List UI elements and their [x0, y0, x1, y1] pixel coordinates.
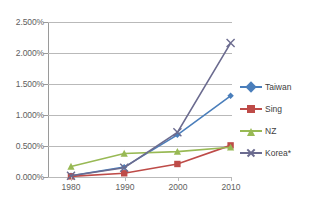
y-tick-label: 0.000%	[2, 172, 44, 182]
series-line	[71, 43, 231, 176]
legend-item-sing[interactable]: Sing	[240, 98, 318, 120]
x-axis-tick	[231, 177, 232, 181]
legend-label: Korea*	[265, 149, 291, 158]
x-axis-line	[48, 177, 232, 178]
y-tick-label: 2.500%	[2, 17, 44, 27]
legend-item-nz[interactable]: NZ	[240, 120, 318, 142]
series-line	[71, 96, 231, 176]
series-layer	[48, 22, 232, 177]
y-tick-label: 1.500%	[2, 79, 44, 89]
legend-label: NZ	[265, 127, 276, 136]
x-axis-tick	[125, 177, 126, 181]
y-tick-label: 2.000%	[2, 48, 44, 58]
legend-item-taiwan[interactable]: Taiwan	[240, 76, 318, 98]
y-tick-label: 0.500%	[2, 141, 44, 151]
legend-item-korea[interactable]: Korea*	[240, 142, 318, 164]
data-point	[227, 39, 235, 47]
legend-label: Taiwan	[265, 83, 291, 92]
series-taiwan	[68, 93, 234, 179]
x-tick-label: 2010	[211, 182, 251, 192]
legend-swatch-sing	[240, 103, 262, 115]
line-chart: 2.500% 2.000% 1.500% 1.000% 0.500% 0.000…	[0, 0, 320, 210]
plot-area	[48, 22, 232, 177]
x-tick-label: 2000	[158, 182, 198, 192]
x-axis-tick	[178, 177, 179, 181]
y-tick-label: 1.000%	[2, 110, 44, 120]
data-point	[174, 161, 180, 167]
legend-swatch-korea	[240, 147, 262, 159]
series-korea	[67, 39, 235, 180]
chart-legend: Taiwan Sing NZ Korea*	[240, 76, 318, 164]
data-point	[121, 170, 127, 176]
legend-label: Sing	[265, 105, 282, 114]
legend-swatch-taiwan	[240, 81, 262, 93]
x-tick-label: 1980	[51, 182, 91, 192]
x-axis-tick	[71, 177, 72, 181]
x-tick-label: 1990	[105, 182, 145, 192]
legend-swatch-nz	[240, 125, 262, 137]
series-nz	[67, 144, 234, 170]
